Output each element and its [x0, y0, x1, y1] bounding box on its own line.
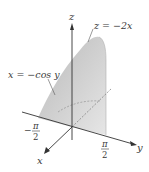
top-surface-label: z = −2x [93, 20, 133, 31]
neg-half-pi-numerator: π [32, 121, 39, 131]
neg-half-pi-sign: − [24, 125, 32, 135]
x-axis-arrow-icon [44, 147, 50, 154]
half-pi-numerator: π [101, 139, 108, 149]
x-axis-label: x [37, 155, 43, 166]
z-axis-arrow-icon [70, 23, 74, 30]
z-axis-label: z [68, 11, 75, 22]
figure: z y x z = −2x x = −cos y − π 2 π 2 [0, 0, 149, 172]
y-axis-arrow-icon [130, 141, 137, 146]
side-surface-label: x = −cos y [8, 69, 60, 80]
neg-half-pi-denominator: 2 [33, 132, 38, 142]
region-diagram: z y x z = −2x x = −cos y − π 2 π 2 [0, 0, 149, 172]
y-axis-label: y [136, 142, 143, 153]
x-axis [47, 127, 72, 151]
half-pi-denominator: 2 [102, 150, 107, 160]
